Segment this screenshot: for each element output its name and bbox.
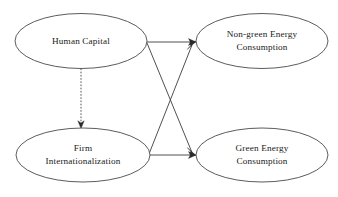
- arrowhead-hc-firm: [78, 121, 84, 129]
- ellipse-non-green-energy-consumption[interactable]: [196, 14, 328, 69]
- ellipse-firm-internationalization[interactable]: [16, 128, 150, 182]
- edge-firm-internationalization-to-non-green-energy: [149, 41, 196, 154]
- edge-line-hc-green: [147, 43, 192, 153]
- node-label-non-green-energy-line2: Consumption: [236, 42, 287, 52]
- node-label-human-capital: Human Capital: [52, 36, 110, 46]
- edge-human-capital-to-non-green-energy: [147, 39, 196, 46]
- diagram-canvas: Human Capital Non-green Energy Consumpti…: [0, 0, 338, 197]
- edge-firm-internationalization-to-green-energy: [149, 152, 196, 159]
- node-green-energy-consumption[interactable]: Green Energy Consumption: [196, 128, 328, 182]
- node-firm-internationalization[interactable]: Firm Internationalization: [16, 128, 150, 182]
- edge-human-capital-to-green-energy: [147, 43, 196, 156]
- node-non-green-energy-consumption[interactable]: Non-green Energy Consumption: [196, 14, 328, 69]
- ellipse-green-energy-consumption[interactable]: [196, 128, 328, 182]
- node-label-green-energy-line2: Consumption: [236, 156, 287, 166]
- node-label-non-green-energy-line1: Non-green Energy: [227, 29, 298, 39]
- node-label-firm-internationalization-line1: Firm: [74, 143, 92, 153]
- node-human-capital[interactable]: Human Capital: [15, 14, 147, 69]
- research-model-diagram: Human Capital Non-green Energy Consumpti…: [0, 0, 338, 197]
- node-label-green-energy-line1: Green Energy: [236, 143, 289, 153]
- node-label-firm-internationalization-line2: Internationalization: [46, 156, 121, 166]
- edge-human-capital-to-firm-internationalization: [78, 69, 84, 129]
